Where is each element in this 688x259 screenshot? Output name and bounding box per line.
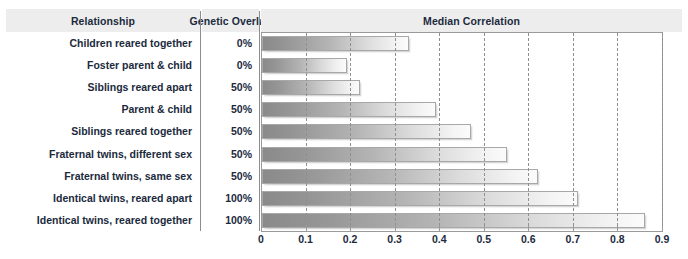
x-tick-label: 0.4 — [432, 233, 447, 245]
gridline — [306, 33, 307, 231]
cell-relationship: Fraternal twins, same sex — [0, 165, 192, 187]
column-header-median-correlation: Median Correlation — [261, 9, 682, 32]
cell-genetic-overlap: 0% — [200, 54, 252, 76]
x-tick-label: 0.1 — [298, 233, 313, 245]
cell-relationship: Foster parent & child — [0, 54, 192, 76]
x-tick-label: 0.5 — [476, 233, 491, 245]
x-tick-mark — [395, 225, 396, 231]
x-tick-label: 0 — [258, 233, 264, 245]
cell-relationship: Identical twins, reared together — [0, 209, 192, 231]
x-tick-mark — [439, 225, 440, 231]
cell-genetic-overlap: 50% — [200, 76, 252, 98]
cell-relationship: Siblings reared apart — [0, 76, 192, 98]
bar-chart-plot — [261, 32, 663, 230]
gridline — [350, 33, 351, 231]
bar-row — [262, 166, 662, 188]
bar-row — [262, 121, 662, 143]
cell-relationship: Identical twins, reared apart — [0, 187, 192, 209]
bar — [262, 80, 360, 95]
bar-row — [262, 99, 662, 121]
x-tick-label: 0.2 — [343, 233, 358, 245]
bar-row — [262, 33, 662, 55]
bar — [262, 58, 347, 73]
x-tick-label: 0.9 — [655, 233, 670, 245]
x-tick-mark — [573, 225, 574, 231]
cell-genetic-overlap: 50% — [200, 98, 252, 120]
gridline — [395, 33, 396, 231]
x-tick-mark — [528, 225, 529, 231]
cell-genetic-overlap: 100% — [200, 209, 252, 231]
gridline — [528, 33, 529, 231]
x-tick-label: 0.3 — [387, 233, 402, 245]
cell-genetic-overlap: 50% — [200, 143, 252, 165]
x-tick-mark — [484, 225, 485, 231]
cell-relationship: Parent & child — [0, 98, 192, 120]
bar-row — [262, 55, 662, 77]
x-tick-mark — [350, 225, 351, 231]
cell-relationship: Fraternal twins, different sex — [0, 143, 192, 165]
gridline — [484, 33, 485, 231]
bar-row — [262, 210, 662, 232]
bar — [262, 169, 538, 184]
cell-genetic-overlap: 0% — [200, 32, 252, 54]
x-tick-mark — [261, 225, 262, 231]
column-header-relationship: Relationship — [6, 9, 200, 32]
gridline — [439, 33, 440, 231]
x-tick-label: 0.7 — [566, 233, 581, 245]
column-header-genetic-overlap: Genetic Overlap — [202, 9, 259, 32]
gridline — [617, 33, 618, 231]
x-tick-mark — [617, 225, 618, 231]
x-tick-label: 0.6 — [521, 233, 536, 245]
x-tick-mark — [662, 225, 663, 231]
gridline — [573, 33, 574, 231]
cell-relationship: Children reared together — [0, 32, 192, 54]
chart-table-figure: Relationship Genetic Overlap Median Corr… — [0, 0, 688, 259]
cell-genetic-overlap: 100% — [200, 187, 252, 209]
bar-row — [262, 188, 662, 210]
bar — [262, 147, 507, 162]
bar-row — [262, 77, 662, 99]
cell-genetic-overlap: 50% — [200, 120, 252, 142]
cell-relationship: Siblings reared together — [0, 120, 192, 142]
bar — [262, 191, 578, 206]
x-axis: 00.10.20.30.40.50.60.70.80.9 — [261, 231, 681, 253]
bar — [262, 213, 645, 228]
bar — [262, 36, 409, 51]
table-header: Relationship Genetic Overlap Median Corr… — [0, 9, 688, 32]
bar-row — [262, 144, 662, 166]
x-tick-mark — [306, 225, 307, 231]
cell-genetic-overlap: 50% — [200, 165, 252, 187]
x-tick-label: 0.8 — [610, 233, 625, 245]
bar — [262, 102, 436, 117]
gridline — [662, 33, 663, 231]
